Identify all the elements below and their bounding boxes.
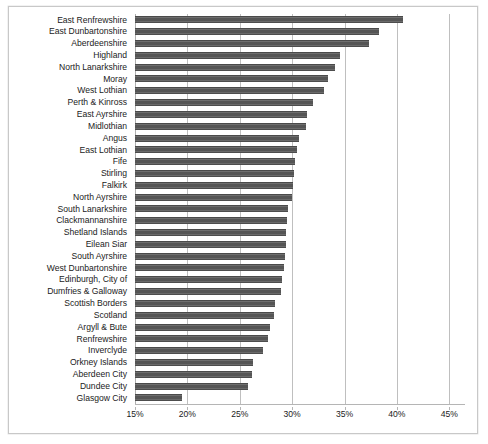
bar xyxy=(135,182,293,189)
bar-row xyxy=(135,26,465,38)
bar-row xyxy=(135,345,465,357)
y-axis-category-label: Dumfries & Galloway xyxy=(13,286,131,298)
bar xyxy=(135,205,288,212)
bar-row xyxy=(135,85,465,97)
x-axis-tick-label: 20% xyxy=(179,409,196,419)
chart-plot-wrapper: East RenfrewshireEast DunbartonshireAber… xyxy=(9,7,477,433)
bar xyxy=(135,135,299,142)
bar xyxy=(135,229,286,236)
bar xyxy=(135,111,307,118)
y-axis-category-label: East Dunbartonshire xyxy=(13,26,131,38)
bar-row xyxy=(135,120,465,132)
y-axis-category-label: Aberdeenshire xyxy=(13,38,131,50)
bar-row xyxy=(135,321,465,333)
bar-row xyxy=(135,191,465,203)
bar xyxy=(135,194,292,201)
y-axis-category-label: Scottish Borders xyxy=(13,298,131,310)
y-axis-category-label: East Lothian xyxy=(13,144,131,156)
y-axis-category-label: North Ayrshire xyxy=(13,191,131,203)
bar xyxy=(135,347,263,354)
bar-row xyxy=(135,333,465,345)
bar-row xyxy=(135,73,465,85)
y-axis-category-label: South Ayrshire xyxy=(13,250,131,262)
y-axis-category-label: West Lothian xyxy=(13,85,131,97)
bar xyxy=(135,123,306,130)
bar-row xyxy=(135,132,465,144)
bar-row xyxy=(135,309,465,321)
x-axis-line xyxy=(135,404,465,405)
bar xyxy=(135,241,286,248)
y-axis-category-label: East Renfrewshire xyxy=(13,14,131,26)
bar xyxy=(135,64,335,71)
chart-bars xyxy=(135,14,465,404)
bar xyxy=(135,324,270,331)
y-axis-category-label: Shetland Islands xyxy=(13,227,131,239)
bar xyxy=(135,52,340,59)
y-axis-category-label: Argyll & Bute xyxy=(13,321,131,333)
x-axis-tick-label: 40% xyxy=(388,409,405,419)
x-axis-tick-label: 35% xyxy=(336,409,353,419)
y-axis-category-label: Renfrewshire xyxy=(13,333,131,345)
y-axis-category-label: Falkirk xyxy=(13,179,131,191)
chart-plot-area xyxy=(135,14,465,404)
bar xyxy=(135,264,284,271)
y-axis-category-label: Angus xyxy=(13,132,131,144)
bar-row xyxy=(135,274,465,286)
bar xyxy=(135,359,253,366)
y-axis-category-label: Highland xyxy=(13,49,131,61)
bar xyxy=(135,253,285,260)
bar-row xyxy=(135,203,465,215)
y-axis-category-label: East Ayrshire xyxy=(13,109,131,121)
bar-row xyxy=(135,49,465,61)
bar-row xyxy=(135,61,465,73)
bar-row xyxy=(135,156,465,168)
bar xyxy=(135,40,369,47)
y-axis-category-label: Edinburgh, City of xyxy=(13,274,131,286)
y-axis-category-label: Stirling xyxy=(13,168,131,180)
y-axis-category-label: Moray xyxy=(13,73,131,85)
y-axis-category-label: Clackmannanshire xyxy=(13,215,131,227)
bar-row xyxy=(135,262,465,274)
bar xyxy=(135,158,295,165)
y-axis-category-label: Scotland xyxy=(13,309,131,321)
bar-row xyxy=(135,357,465,369)
y-axis-category-labels: East RenfrewshireEast DunbartonshireAber… xyxy=(13,14,131,404)
bar xyxy=(135,28,379,35)
bar-row xyxy=(135,392,465,404)
x-axis-tick-label: 15% xyxy=(126,409,143,419)
bar-row xyxy=(135,38,465,50)
bar-row xyxy=(135,380,465,392)
bar xyxy=(135,394,182,401)
bar-row xyxy=(135,215,465,227)
bar xyxy=(135,170,294,177)
x-axis-tick-label: 45% xyxy=(441,409,458,419)
bar xyxy=(135,312,274,319)
bar-row xyxy=(135,368,465,380)
y-axis-category-label: Orkney Islands xyxy=(13,357,131,369)
y-axis-category-label: Dundee City xyxy=(13,380,131,392)
bar xyxy=(135,146,297,153)
bar-row xyxy=(135,238,465,250)
x-axis-tick-label: 25% xyxy=(231,409,248,419)
bar xyxy=(135,288,281,295)
bar xyxy=(135,75,328,82)
y-axis-category-label: Perth & Kinross xyxy=(13,97,131,109)
bar xyxy=(135,276,282,283)
chart-frame: East RenfrewshireEast DunbartonshireAber… xyxy=(8,6,478,434)
bar-row xyxy=(135,250,465,262)
bar-row xyxy=(135,97,465,109)
bar-row xyxy=(135,144,465,156)
bar xyxy=(135,16,403,23)
x-axis-tick-labels: 15%20%25%30%35%40%45% xyxy=(135,407,465,423)
y-axis-category-label: South Lanarkshire xyxy=(13,203,131,215)
y-axis-category-label: Eilean Siar xyxy=(13,238,131,250)
bar xyxy=(135,87,324,94)
bar xyxy=(135,217,287,224)
bar xyxy=(135,335,268,342)
y-axis-category-label: North Lanarkshire xyxy=(13,61,131,73)
bar xyxy=(135,99,313,106)
bar-row xyxy=(135,168,465,180)
bar-row xyxy=(135,109,465,121)
y-axis-category-label: Aberdeen City xyxy=(13,368,131,380)
bar-row xyxy=(135,227,465,239)
